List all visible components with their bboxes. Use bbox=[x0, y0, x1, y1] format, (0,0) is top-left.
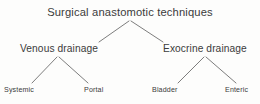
edge-venous-to-portal bbox=[59, 57, 88, 83]
edge-exocrine-to-enteric bbox=[206, 57, 236, 83]
node-root: Surgical anastomotic techniques bbox=[47, 7, 213, 18]
edge-venous-to-systemic bbox=[32, 57, 57, 83]
node-enteric: Enteric bbox=[225, 87, 248, 94]
node-venous-drainage: Venous drainage bbox=[20, 44, 98, 54]
tree-diagram: Surgical anastomotic techniques Venous d… bbox=[0, 0, 260, 104]
edge-root-to-venous bbox=[99, 21, 129, 42]
node-portal: Portal bbox=[84, 87, 103, 94]
edge-exocrine-to-bladder bbox=[178, 57, 204, 83]
node-exocrine-drainage: Exocrine drainage bbox=[163, 44, 247, 54]
edge-root-to-exocrine bbox=[131, 21, 163, 42]
node-systemic: Systemic bbox=[4, 87, 34, 94]
node-bladder: Bladder bbox=[152, 87, 178, 94]
